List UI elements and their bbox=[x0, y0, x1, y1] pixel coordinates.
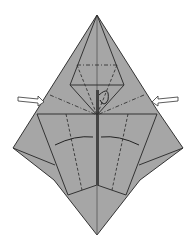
push-arrow-right bbox=[152, 96, 178, 106]
paper-shape bbox=[13, 15, 183, 235]
push-arrow-left bbox=[18, 96, 44, 106]
origami-diagram bbox=[0, 0, 194, 250]
